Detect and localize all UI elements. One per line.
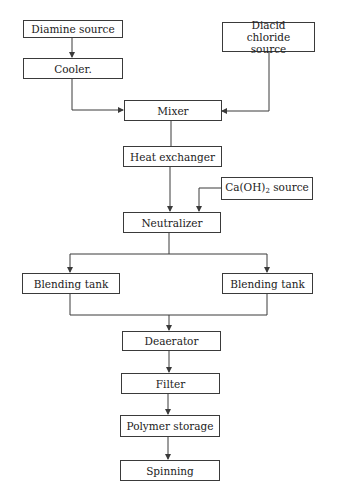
node-cooler: Cooler.: [23, 58, 123, 79]
node-mixer: Mixer: [124, 100, 222, 121]
node-blending-tank-right: Blending tank: [222, 273, 313, 294]
node-heat-exchanger: Heat exchanger: [123, 146, 222, 167]
node-label: Spinning: [146, 465, 194, 477]
node-label: Cooler.: [54, 63, 91, 75]
node-deaerator: Deaerator: [122, 331, 221, 351]
node-caoh2-source: Ca(OH)2 source: [221, 177, 313, 200]
node-label: Blending tank: [230, 278, 305, 290]
node-label: Mixer: [157, 105, 188, 117]
node-diamine-source: Diamine source: [23, 20, 123, 38]
node-label: Deaerator: [145, 335, 199, 347]
label-main: Ca(OH): [225, 181, 265, 193]
node-filter: Filter: [121, 373, 220, 394]
node-label: Heat exchanger: [130, 151, 215, 163]
node-blending-tank-left: Blending tank: [22, 273, 120, 294]
node-neutralizer: Neutralizer: [123, 212, 221, 233]
label-tail: source: [270, 181, 309, 193]
node-diacid-chloride-source: Diacid chloride source: [222, 22, 315, 52]
node-label: Blending tank: [34, 278, 109, 290]
node-label: Neutralizer: [141, 217, 202, 229]
node-label: Diacid chloride source: [229, 19, 308, 55]
flowchart-canvas: Diamine source Cooler. Diacid chloride s…: [0, 0, 338, 500]
node-label: Ca(OH)2 source: [225, 181, 309, 197]
node-label: Diamine source: [31, 23, 114, 35]
node-label: Polymer storage: [127, 420, 214, 432]
node-spinning: Spinning: [120, 460, 220, 481]
node-polymer-storage: Polymer storage: [120, 415, 220, 437]
node-label: Filter: [156, 378, 185, 390]
